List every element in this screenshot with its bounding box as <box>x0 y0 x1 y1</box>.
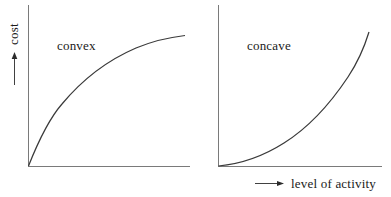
right-arrow-icon <box>277 181 284 186</box>
convex-label: convex <box>57 38 96 53</box>
y-axis-label-group: cost <box>6 23 21 85</box>
x-axis-label: level of activity <box>291 176 376 191</box>
right-panel: concave <box>218 5 382 167</box>
up-arrow-icon <box>12 52 18 59</box>
concave-curve <box>219 32 370 166</box>
left-panel: convex <box>28 5 190 167</box>
convex-curve <box>29 36 186 167</box>
x-axis-label-group: level of activity <box>255 176 376 191</box>
y-axis-label: cost <box>6 23 21 45</box>
cost-curves-figure: convex concave cost level of activity <box>0 0 391 197</box>
concave-label: concave <box>247 38 291 53</box>
